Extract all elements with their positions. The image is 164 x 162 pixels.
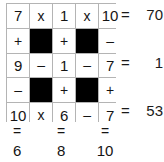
grid-cell-r2c2[interactable]: 1 [53, 54, 75, 78]
column-results-row: 6 8 10 [6, 140, 116, 160]
grid-cell-r3c0[interactable]: – [7, 78, 29, 102]
column-equals-sign-1: = [6, 122, 28, 140]
row-result-2: = 1 [118, 51, 164, 75]
column-result-value-2: 8 [50, 140, 72, 160]
row-equals-sign-2: = [118, 55, 137, 70]
column-equals-sign-3: = [94, 122, 116, 140]
grid-cell-r2c3[interactable]: – [76, 54, 98, 78]
row-result-value-3: 53 [137, 103, 163, 118]
column-result-value-1: 6 [6, 140, 28, 160]
grid-cell-r3c2[interactable]: + [53, 78, 75, 102]
row-result-value-1: 70 [137, 7, 163, 22]
column-result-value-3: 10 [94, 140, 116, 160]
grid-cell-r2c1[interactable]: – [30, 54, 52, 78]
row-equals-sign-1: = [118, 7, 137, 22]
grid-cell-r3c3-blocked [76, 78, 98, 102]
row-result-3: = 53 [118, 98, 164, 122]
row-result-1: = 70 [118, 3, 164, 27]
grid-cell-r1c0[interactable]: + [7, 29, 29, 53]
column-equals-sign-2: = [50, 122, 72, 140]
grid-cell-r1c2[interactable]: + [53, 29, 75, 53]
puzzle-grid: 7 x 1 x 10 + + – 9 – 1 – 7 – + + 10 x 6 … [6, 3, 116, 122]
row-results: = 70 = 1 = 53 [118, 3, 164, 122]
grid-cell-r1c1-blocked [30, 29, 52, 53]
grid-cell-r3c1-blocked [30, 78, 52, 102]
column-equals-row: = = = [6, 122, 116, 140]
grid-cell-r0c3[interactable]: x [76, 4, 98, 28]
grid-cell-r0c2[interactable]: 1 [53, 4, 75, 28]
grid-cell-r1c3-blocked [76, 29, 98, 53]
row-equals-sign-3: = [118, 103, 137, 118]
row-result-value-2: 1 [137, 55, 163, 70]
grid-cell-r2c0[interactable]: 9 [7, 54, 29, 78]
puzzle-root: 7 x 1 x 10 + + – 9 – 1 – 7 – + + 10 x 6 … [0, 0, 164, 162]
grid-cell-r0c0[interactable]: 7 [7, 4, 29, 28]
grid-cell-r0c1[interactable]: x [30, 4, 52, 28]
